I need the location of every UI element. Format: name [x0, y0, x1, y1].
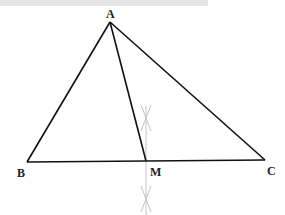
triangle-diagram: A B M C — [0, 0, 285, 215]
side-AC — [110, 22, 265, 160]
median-AM — [110, 22, 146, 161]
label-C: C — [267, 164, 276, 178]
label-B: B — [17, 166, 25, 180]
side-AB — [27, 22, 110, 162]
label-M: M — [150, 165, 161, 179]
label-A: A — [106, 7, 115, 21]
